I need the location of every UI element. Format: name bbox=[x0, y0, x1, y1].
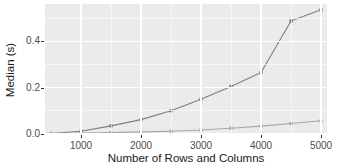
gridline-minor-vertical bbox=[171, 4, 172, 134]
y-axis-tick-label: 0.0 bbox=[14, 129, 40, 139]
gridline-major-horizontal bbox=[45, 41, 327, 42]
gridline-major-vertical bbox=[140, 4, 141, 134]
gridline-major-vertical bbox=[80, 4, 81, 134]
gridline-minor-horizontal bbox=[45, 64, 327, 65]
gridline-major-horizontal bbox=[45, 87, 327, 88]
y-axis-tick-mark bbox=[41, 41, 44, 42]
y-axis-tick-mark bbox=[41, 88, 44, 89]
gridline-minor-vertical bbox=[111, 4, 112, 134]
x-axis-tick-label: 4000 bbox=[241, 140, 281, 151]
x-axis-tick-label: 2000 bbox=[121, 140, 161, 151]
series-line bbox=[51, 10, 321, 134]
y-axis-tick-label: 0.2 bbox=[14, 83, 40, 93]
gridline-minor-horizontal bbox=[45, 18, 327, 19]
x-axis-tick-label: 5000 bbox=[301, 140, 337, 151]
x-axis-tick-mark bbox=[201, 135, 202, 138]
x-axis-title: Number of Rows and Columns bbox=[45, 152, 327, 165]
y-axis-tick-mark bbox=[41, 134, 44, 135]
series-upper bbox=[49, 8, 322, 134]
x-axis-tick-label: 1000 bbox=[61, 140, 101, 151]
x-axis-tick-mark bbox=[321, 135, 322, 138]
gridline-major-vertical bbox=[260, 4, 261, 134]
plot-panel bbox=[45, 4, 327, 134]
series-layer bbox=[45, 4, 327, 134]
gridline-minor-vertical bbox=[291, 4, 292, 134]
gridline-major-vertical bbox=[200, 4, 201, 134]
gridline-minor-horizontal bbox=[45, 110, 327, 111]
series-lower bbox=[49, 119, 322, 134]
gridline-major-horizontal bbox=[45, 133, 327, 134]
x-axis-tick-label: 3000 bbox=[181, 140, 221, 151]
y-axis-tick-label: 0.4 bbox=[14, 36, 40, 46]
x-axis-tick-mark bbox=[81, 135, 82, 138]
x-axis-tick-mark bbox=[141, 135, 142, 138]
gridline-minor-vertical bbox=[231, 4, 232, 134]
y-axis-tick-labels: 0.00.20.4 bbox=[14, 0, 40, 140]
x-axis-tick-mark bbox=[261, 135, 262, 138]
gridline-major-vertical bbox=[320, 4, 321, 134]
series-line bbox=[51, 121, 321, 134]
